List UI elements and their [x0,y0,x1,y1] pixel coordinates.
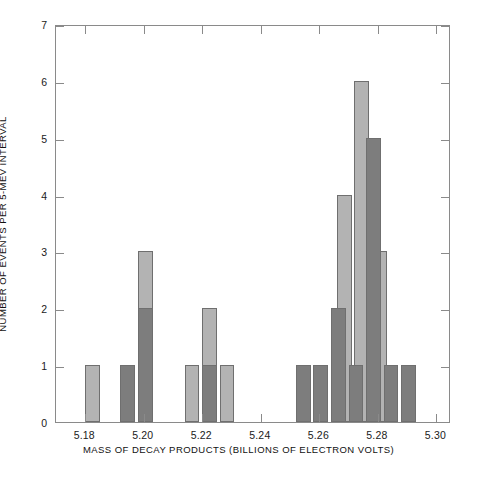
histogram-bar [401,365,416,422]
x-tick-label: 5.30 [425,429,446,441]
x-tick-label: 5.28 [366,429,387,441]
x-axis-tick [202,26,203,34]
x-axis-tick [378,414,379,422]
histogram-bar [220,365,235,422]
histogram-bar [296,365,311,422]
y-axis-tick [56,140,64,141]
x-axis-tick [261,414,262,422]
histogram-bar [313,365,328,422]
y-tick-label: 2 [29,303,47,315]
y-axis-tick [441,253,449,254]
x-axis-tick [85,26,86,34]
x-axis-tick [261,26,262,34]
y-axis-tick [56,83,64,84]
y-axis-tick [441,367,449,368]
x-axis-tick [202,414,203,422]
histogram-bar [331,308,346,422]
y-axis-tick [441,197,449,198]
x-axis-tick [378,26,379,34]
x-axis-tick [85,414,86,422]
y-tick-label: 1 [29,360,47,372]
y-tick-label: 4 [29,190,47,202]
y-tick-label: 7 [29,19,47,31]
y-axis-tick [56,367,64,368]
x-tick-label: 5.18 [74,429,95,441]
y-tick-label: 3 [29,246,47,258]
histogram-bar [202,365,217,422]
y-axis-tick [56,197,64,198]
y-axis-tick [441,26,449,27]
y-axis-tick [56,26,64,27]
y-axis-tick [441,310,449,311]
x-tick-label: 5.24 [249,429,270,441]
y-tick-label: 0 [29,417,47,429]
x-axis-tick [319,414,320,422]
histogram-bar [384,365,399,422]
y-axis-title: NUMBER OF EVENTS PER 5-MEV INTERVAL [0,116,8,331]
x-axis-tick [144,26,145,34]
x-axis-tick [436,26,437,34]
x-axis-title: MASS OF DECAY PRODUCTS (BILLIONS OF ELEC… [0,444,477,455]
y-tick-label: 6 [29,76,47,88]
plot-area [55,25,450,423]
y-axis-tick [56,253,64,254]
x-axis-tick [319,26,320,34]
histogram-figure: NUMBER OF EVENTS PER 5-MEV INTERVAL 0123… [0,0,477,478]
bars-layer [56,26,449,422]
histogram-bar [349,365,364,422]
histogram-bar [120,365,135,422]
y-axis-tick [56,310,64,311]
x-axis-tick [436,414,437,422]
x-tick-label: 5.26 [308,429,329,441]
y-axis-tick [441,83,449,84]
histogram-bar [138,308,153,422]
histogram-bar [185,365,200,422]
x-tick-label: 5.20 [132,429,153,441]
histogram-bar [85,365,100,422]
x-tick-label: 5.22 [191,429,212,441]
y-axis-tick [441,140,449,141]
histogram-bar [366,138,381,422]
y-tick-label: 5 [29,133,47,145]
x-axis-tick [144,414,145,422]
